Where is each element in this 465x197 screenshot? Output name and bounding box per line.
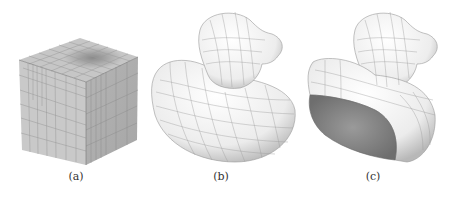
caption-b: (b) [201, 170, 241, 183]
panel-b-duck-mesh [140, 0, 310, 170]
figure: (a) (b) (c) [0, 0, 465, 197]
panel-c-cut-duck [295, 0, 465, 170]
caption-a: (a) [56, 170, 96, 183]
panel-a-cube-mesh [0, 0, 155, 170]
caption-c: (c) [353, 170, 393, 183]
